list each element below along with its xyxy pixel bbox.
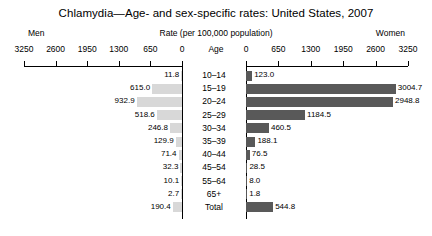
- women-value-label: 76.5: [252, 149, 268, 158]
- chart-row: 246.830–34460.5: [0, 122, 432, 135]
- women-bar-cell: 1.8: [246, 188, 432, 201]
- women-value-label: 460.5: [271, 123, 291, 132]
- men-bar: [137, 97, 182, 107]
- right-axis-tick-labels: 06501300195026003250: [0, 44, 432, 56]
- women-value-label: 3004.7: [398, 83, 422, 92]
- men-bar: [181, 176, 182, 186]
- men-value-label: 71.4: [161, 149, 177, 158]
- men-bar-cell: 32.3: [0, 161, 182, 174]
- chart-row: 932.920–242948.8: [0, 95, 432, 108]
- chart-row: 11.810–14123.0: [0, 69, 432, 82]
- age-group-label: 35–39: [188, 136, 240, 146]
- men-bar-cell: 518.6: [0, 109, 182, 122]
- men-value-label: 129.9: [154, 136, 174, 145]
- right-tick-label: 3250: [399, 44, 418, 54]
- women-bar: [246, 123, 269, 133]
- men-value-label: 518.6: [135, 110, 155, 119]
- right-tick-label: 2600: [366, 44, 385, 54]
- right-tick-label: 0: [244, 44, 249, 54]
- men-bar-cell: 615.0: [0, 82, 182, 95]
- women-bar: [246, 176, 247, 186]
- women-bar: [246, 97, 393, 107]
- age-group-label: 45–54: [188, 162, 240, 172]
- men-bar: [180, 163, 182, 173]
- women-value-label: 544.8: [275, 202, 295, 211]
- left-axis-line: [24, 66, 182, 67]
- women-bar-cell: 544.8: [246, 201, 432, 214]
- women-bar-cell: 123.0: [246, 69, 432, 82]
- right-axis-line: [246, 66, 408, 67]
- women-bar-cell: 2948.8: [246, 95, 432, 108]
- right-tick-mark: [408, 61, 409, 66]
- men-bar: [181, 189, 182, 199]
- men-bar: [152, 84, 182, 94]
- men-value-label: 11.8: [164, 70, 179, 79]
- men-bar-cell: 11.8: [0, 69, 182, 82]
- chart-row: 71.440–4476.5: [0, 148, 432, 161]
- men-value-label: 2.7: [168, 189, 179, 198]
- women-value-label: 1184.5: [307, 110, 331, 119]
- chart-row: 2.765+1.8: [0, 188, 432, 201]
- chart-row: 518.625–291184.5: [0, 109, 432, 122]
- age-group-label: 30–34: [188, 123, 240, 133]
- age-group-label: 25–29: [188, 110, 240, 120]
- women-bar-cell: 188.1: [246, 135, 432, 148]
- women-bar-cell: 460.5: [246, 122, 432, 135]
- age-group-label: 15–19: [188, 83, 240, 93]
- age-group-label: 20–24: [188, 96, 240, 106]
- chart-container: Chlamydia—Age- and sex-specific rates: U…: [0, 0, 432, 236]
- age-group-label: Total: [188, 202, 240, 212]
- men-value-label: 932.9: [115, 96, 135, 105]
- right-tick-label: 650: [271, 44, 285, 54]
- men-value-label: 32.3: [163, 162, 179, 171]
- men-value-label: 190.4: [151, 202, 171, 211]
- women-bar-cell: 8.0: [246, 175, 432, 188]
- women-bar: [246, 150, 250, 160]
- women-bar: [246, 84, 396, 94]
- women-value-label: 8.0: [249, 176, 260, 185]
- men-bar: [170, 123, 182, 133]
- men-value-label: 246.8: [148, 123, 168, 132]
- right-tick-label: 1300: [301, 44, 320, 54]
- men-bar-cell: 129.9: [0, 135, 182, 148]
- men-bar: [179, 150, 182, 160]
- men-bar: [173, 202, 182, 212]
- men-value-label: 10.1: [164, 176, 180, 185]
- women-bar-cell: 76.5: [246, 148, 432, 161]
- chart-row: 190.4Total544.8: [0, 201, 432, 214]
- women-value-label: 2948.8: [395, 96, 419, 105]
- women-bar-cell: 3004.7: [246, 82, 432, 95]
- women-group-label: Women: [376, 28, 405, 38]
- women-bar: [246, 71, 252, 81]
- chart-row: 129.935–39188.1: [0, 135, 432, 148]
- women-value-label: 188.1: [257, 136, 277, 145]
- age-group-label: 40–44: [188, 149, 240, 159]
- men-bar-cell: 932.9: [0, 95, 182, 108]
- chart-row: 32.345–5428.5: [0, 161, 432, 174]
- men-bar-cell: 71.4: [0, 148, 182, 161]
- men-bar-cell: 246.8: [0, 122, 182, 135]
- women-value-label: 28.5: [249, 162, 265, 171]
- chart-title: Chlamydia—Age- and sex-specific rates: U…: [0, 7, 432, 19]
- women-value-label: 1.8: [249, 189, 260, 198]
- men-bar: [181, 71, 182, 81]
- men-value-label: 615.0: [130, 83, 150, 92]
- men-bar-cell: 2.7: [0, 188, 182, 201]
- rate-axis-label: Rate (per 100,000 population): [0, 28, 432, 38]
- women-bar-cell: 1184.5: [246, 109, 432, 122]
- right-tick-label: 1950: [334, 44, 353, 54]
- women-bar: [246, 202, 273, 212]
- women-bar: [246, 137, 255, 147]
- age-group-label: 10–14: [188, 70, 240, 80]
- men-bar: [176, 137, 182, 147]
- chart-rows: 11.810–14123.0615.015–193004.7932.920–24…: [0, 69, 432, 214]
- men-bar-cell: 10.1: [0, 175, 182, 188]
- women-bar-cell: 28.5: [246, 161, 432, 174]
- age-group-label: 65+: [188, 189, 240, 199]
- age-group-label: 55–64: [188, 176, 240, 186]
- men-bar: [157, 110, 182, 120]
- chart-row: 10.155–648.0: [0, 175, 432, 188]
- women-bar: [246, 189, 247, 199]
- women-value-label: 123.0: [254, 70, 274, 79]
- women-bar: [246, 110, 305, 120]
